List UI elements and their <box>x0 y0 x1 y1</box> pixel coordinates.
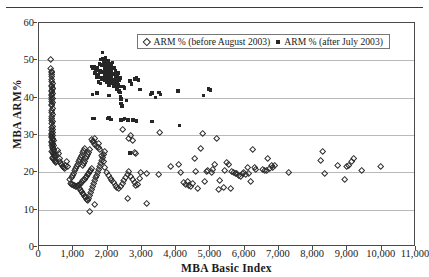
data-point-series-0 <box>91 201 99 209</box>
data-point-series-1 <box>121 118 125 122</box>
data-point-series-0 <box>49 154 57 162</box>
data-point-series-0 <box>122 174 130 182</box>
data-point-series-1 <box>114 69 118 73</box>
data-point-series-1 <box>112 66 116 70</box>
data-point-series-0 <box>78 152 86 160</box>
data-point-series-1 <box>100 70 104 74</box>
data-point-series-0 <box>76 185 84 193</box>
data-point-series-0 <box>48 113 56 121</box>
data-point-series-0 <box>86 146 94 154</box>
y-tick-mark <box>33 97 37 98</box>
data-point-series-0 <box>50 151 58 159</box>
data-point-series-0 <box>62 162 70 170</box>
data-point-series-0 <box>101 148 109 156</box>
data-point-series-0 <box>55 155 63 163</box>
x-axis-label: MBA Basic Index <box>38 262 415 274</box>
data-point-series-0 <box>70 182 78 190</box>
data-point-series-0 <box>130 179 138 187</box>
data-point-series-0 <box>249 146 257 154</box>
data-point-series-0 <box>85 170 93 178</box>
data-point-series-0 <box>341 175 349 183</box>
data-point-series-0 <box>79 177 87 185</box>
data-point-series-0 <box>48 105 56 113</box>
data-point-series-0 <box>96 163 104 171</box>
data-point-series-0 <box>197 145 205 153</box>
data-point-series-1 <box>100 77 104 81</box>
data-point-series-1 <box>109 79 113 83</box>
data-point-series-0 <box>48 101 56 109</box>
data-point-series-1 <box>102 70 106 74</box>
data-point-series-0 <box>238 170 246 178</box>
data-point-series-1 <box>110 76 114 80</box>
data-point-series-1 <box>116 71 120 75</box>
open-diamond-icon <box>143 38 151 46</box>
data-point-series-0 <box>58 161 66 169</box>
data-point-series-0 <box>49 143 57 151</box>
y-tick-label: 0 <box>8 241 34 252</box>
data-point-series-1 <box>112 85 116 89</box>
data-point-series-0 <box>78 188 86 196</box>
data-point-series-1 <box>135 119 139 123</box>
data-point-series-1 <box>150 91 154 95</box>
data-point-series-0 <box>94 144 102 152</box>
legend-item-1[interactable]: ARM % (after July 2003) <box>276 36 383 47</box>
chart-legend[interactable]: ARM % (before August 2003)ARM % (after J… <box>137 34 390 49</box>
data-point-series-1 <box>115 87 119 91</box>
data-point-series-0 <box>221 167 229 175</box>
data-point-series-1 <box>133 77 137 81</box>
data-point-series-0 <box>189 180 197 188</box>
y-tick-mark <box>33 209 37 210</box>
legend-label: ARM % (before August 2003) <box>154 36 271 47</box>
data-point-series-0 <box>124 195 132 203</box>
page-rule <box>6 7 423 8</box>
data-point-series-1 <box>126 118 130 122</box>
data-point-series-0 <box>98 157 106 165</box>
data-point-series-0 <box>82 173 90 181</box>
data-point-series-0 <box>49 140 57 148</box>
data-point-series-0 <box>89 138 97 146</box>
legend-item-0[interactable]: ARM % (before August 2003) <box>144 36 270 47</box>
data-point-series-1 <box>149 93 153 97</box>
data-point-series-0 <box>187 183 195 191</box>
data-point-series-0 <box>345 162 353 170</box>
data-point-series-0 <box>269 164 277 172</box>
data-point-series-1 <box>108 73 112 77</box>
y-axis-ticks: 0102030405060 <box>6 22 34 246</box>
data-point-series-0 <box>49 111 57 119</box>
data-point-series-0 <box>69 181 77 189</box>
data-point-series-0 <box>49 145 57 153</box>
data-point-series-0 <box>110 179 118 187</box>
data-point-series-0 <box>225 161 233 169</box>
data-point-series-0 <box>350 155 358 163</box>
data-point-series-1 <box>123 117 127 121</box>
data-point-series-1 <box>104 56 108 60</box>
data-point-series-0 <box>81 145 89 153</box>
data-point-series-0 <box>88 165 96 173</box>
legend-label: ARM % (after July 2003) <box>284 36 383 47</box>
data-point-series-0 <box>83 196 91 204</box>
data-point-series-0 <box>334 162 342 170</box>
data-point-series-0 <box>79 162 87 170</box>
data-point-series-0 <box>129 137 137 145</box>
data-point-series-1 <box>115 73 119 77</box>
data-point-series-0 <box>48 109 56 117</box>
data-point-series-0 <box>78 178 86 186</box>
data-point-series-1 <box>105 65 109 69</box>
x-tick-mark <box>141 246 142 250</box>
data-point-series-0 <box>71 182 79 190</box>
data-point-series-1 <box>97 80 101 84</box>
data-point-series-1 <box>103 72 107 76</box>
data-point-series-0 <box>93 143 101 151</box>
gridline <box>39 98 414 99</box>
data-point-series-0 <box>377 163 385 171</box>
data-point-series-0 <box>81 158 89 166</box>
data-point-series-0 <box>190 155 198 163</box>
figure: MBA ARM% 0102030405060 01,0002,0003,0004… <box>0 0 429 277</box>
data-point-series-0 <box>48 130 56 138</box>
data-point-series-1 <box>123 86 127 90</box>
data-point-series-0 <box>88 186 96 194</box>
data-point-series-0 <box>180 179 188 187</box>
data-point-series-1 <box>103 78 107 82</box>
data-point-series-1 <box>113 78 117 82</box>
data-point-series-1 <box>116 85 120 89</box>
